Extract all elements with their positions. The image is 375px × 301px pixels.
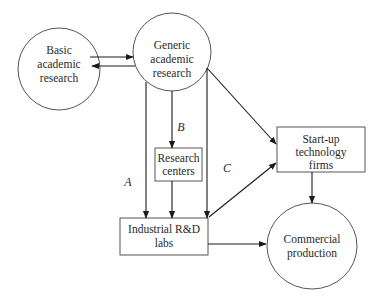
- node-commercial-production: Commercial production: [267, 203, 357, 289]
- innovation-flow-diagram: Basic academic research Generic academic…: [0, 0, 375, 301]
- node-label: academic: [150, 53, 193, 65]
- node-label: firms: [309, 159, 334, 171]
- node-label: Industrial R&D: [128, 223, 200, 235]
- node-label: Start-up: [302, 133, 339, 146]
- node-label: research: [40, 72, 79, 84]
- edge-label-a: A: [123, 175, 132, 189]
- edge-label-c: C: [223, 161, 232, 175]
- node-generic-academic-research: Generic academic research: [133, 13, 211, 91]
- node-label: academic: [37, 58, 80, 70]
- node-basic-academic-research: Basic academic research: [18, 28, 100, 110]
- node-industrial-rd-labs: Industrial R&D labs: [120, 218, 208, 255]
- node-startup-technology-firms: Start-up technology firms: [277, 127, 365, 172]
- node-label: Basic: [46, 44, 72, 56]
- node-label: Research: [157, 152, 199, 164]
- node-research-centers: Research centers: [155, 148, 202, 181]
- node-label: Commercial: [284, 233, 341, 245]
- node-label: production: [287, 247, 337, 260]
- node-label: technology: [295, 146, 346, 159]
- node-label: research: [153, 67, 192, 79]
- node-label: labs: [155, 237, 174, 249]
- edge-label-b: B: [177, 120, 185, 134]
- node-label: centers: [162, 165, 195, 177]
- edge-industrial-to-startup-c: [209, 163, 276, 217]
- node-label: Generic: [154, 39, 190, 51]
- edge-generic-to-startup: [207, 68, 276, 144]
